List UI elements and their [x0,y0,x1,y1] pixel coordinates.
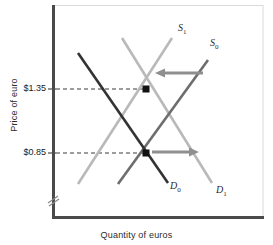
curve-label-s1: S1 [178,22,187,36]
curve-label-s1-sub: 1 [183,28,187,36]
plot-frame [53,6,263,219]
y-axis-title: Price of euro [9,65,19,145]
plot-area [0,0,273,245]
curve-label-d0-sub: 0 [177,186,181,194]
curve-label-d0: D0 [170,180,181,194]
curve-label-d1: D1 [216,184,227,198]
lower-equilibrium-point [143,150,150,157]
x-axis-title: Quantity of euros [0,230,273,240]
curve-label-s0-sub: 0 [215,43,219,51]
upper-equilibrium-point [143,86,150,93]
curve-label-s0: S0 [210,37,219,51]
y-tick-label-lower: $0.85 [4,147,46,157]
curve-label-d1-sub: 1 [223,190,227,198]
supply-demand-figure: $1.35 $0.85 Price of euro Quantity of eu… [0,0,273,245]
